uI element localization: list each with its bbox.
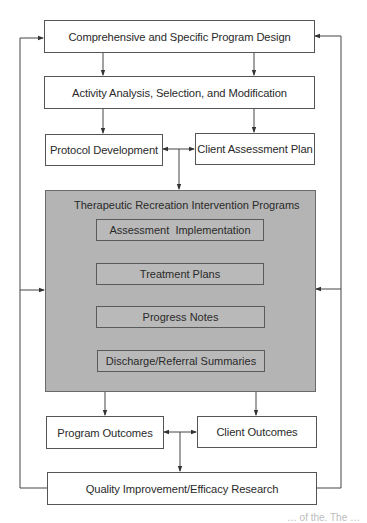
activity-analysis-label: Activity Analysis, Selection, and Modifi… — [72, 87, 287, 99]
program-outcomes-label: Program Outcomes — [57, 427, 152, 439]
protocol-development-label: Protocol Development — [50, 144, 158, 156]
program-outcomes-box: Program Outcomes — [46, 416, 164, 449]
treatment-plans-label: Treatment Plans — [140, 268, 220, 280]
client-outcomes-box: Client Outcomes — [197, 416, 317, 448]
activity-analysis-box: Activity Analysis, Selection, and Modifi… — [44, 76, 315, 109]
client-assessment-plan-box: Client Assessment Plan — [195, 133, 315, 165]
treatment-plans-box: Treatment Plans — [96, 263, 264, 285]
caption-fragment: … of the. The … — [30, 512, 360, 523]
discharge-referral-box: Discharge/Referral Summaries — [97, 350, 265, 372]
program-design-box: Comprehensive and Specific Program Desig… — [44, 20, 315, 53]
progress-notes-label: Progress Notes — [143, 311, 219, 323]
discharge-referral-label: Discharge/Referral Summaries — [106, 355, 256, 367]
quality-improvement-label: Quality Improvement/Efficacy Research — [86, 483, 279, 495]
quality-improvement-box: Quality Improvement/Efficacy Research — [47, 472, 317, 505]
protocol-development-box: Protocol Development — [45, 134, 163, 166]
progress-notes-box: Progress Notes — [96, 306, 265, 328]
assessment-implementation-box: Assessment Implementation — [96, 219, 264, 241]
tr-intervention-programs-title: Therapeutic Recreation Intervention Prog… — [74, 199, 300, 211]
client-outcomes-label: Client Outcomes — [216, 426, 297, 438]
program-design-label: Comprehensive and Specific Program Desig… — [68, 31, 290, 43]
assessment-implementation-label: Assessment Implementation — [109, 224, 250, 236]
client-assessment-plan-label: Client Assessment Plan — [197, 143, 312, 155]
